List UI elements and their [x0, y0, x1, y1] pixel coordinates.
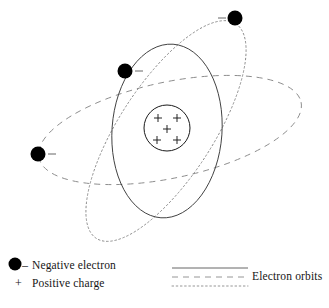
nucleus: [144, 105, 190, 151]
legend-electron-marker-icon: [9, 258, 22, 271]
electron-dot: [228, 11, 243, 26]
electron-dot: [31, 147, 46, 162]
electron-dot: [118, 64, 133, 79]
atom-diagram: [0, 0, 329, 308]
